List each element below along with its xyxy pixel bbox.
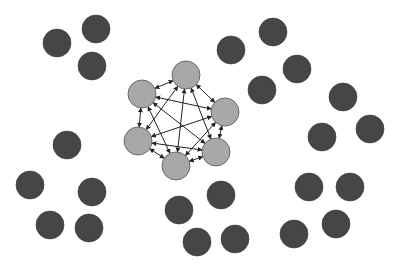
cluster-edge	[139, 108, 141, 127]
outer-node	[295, 173, 323, 201]
outer-node	[322, 210, 350, 238]
cluster-edge	[150, 149, 165, 159]
cluster-node	[128, 80, 156, 108]
cluster-node	[211, 98, 239, 126]
outer-node	[248, 76, 276, 104]
outer-node	[78, 52, 106, 80]
outer-node	[165, 196, 193, 224]
outer-node	[336, 173, 364, 201]
outer-node	[43, 29, 71, 57]
outer-node	[280, 220, 308, 248]
cluster-node	[124, 127, 152, 155]
cluster-node	[162, 152, 190, 180]
outer-node	[16, 171, 44, 199]
outer-node	[308, 123, 336, 151]
outer-nodes	[16, 15, 384, 256]
network-diagram-svg	[0, 0, 398, 267]
cluster-edge	[219, 126, 222, 139]
outer-node	[329, 83, 357, 111]
outer-node	[221, 225, 249, 253]
outer-node	[36, 211, 64, 239]
outer-node	[75, 214, 103, 242]
outer-node	[207, 181, 235, 209]
cluster-edge	[178, 89, 185, 152]
outer-node	[82, 15, 110, 43]
outer-node	[183, 228, 211, 256]
cluster-node	[202, 138, 230, 166]
cluster-edge	[155, 81, 173, 89]
network-diagram	[0, 0, 398, 267]
cluster-edge	[196, 85, 215, 103]
outer-node	[356, 115, 384, 143]
cluster-edge	[189, 157, 203, 162]
outer-node	[259, 18, 287, 46]
outer-node	[217, 36, 245, 64]
outer-node	[283, 55, 311, 83]
cluster-edge	[152, 143, 202, 150]
outer-node	[78, 178, 106, 206]
outer-node	[53, 131, 81, 159]
cluster-node	[172, 61, 200, 89]
